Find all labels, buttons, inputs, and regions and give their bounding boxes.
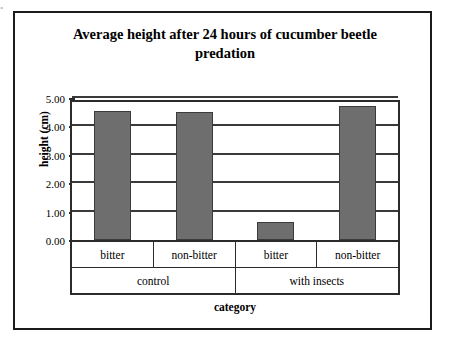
category-label-1-non-bitter: non-bitter [153, 242, 235, 267]
gridline-5 [72, 96, 398, 98]
y-axis-tick-labels: 5.004.003.002.001.000.00 [25, 100, 65, 242]
category-axis-subrow: bitternon-bitterbitternon-bitter [70, 242, 400, 268]
category-axis-table: bitternon-bitterbitternon-bitter control… [70, 242, 400, 295]
bar-with-insects-non-bitter [339, 106, 376, 240]
category-axis-grouprow: controlwith insects [70, 268, 400, 295]
y-tick-label-0.00: 0.00 [31, 236, 65, 247]
y-tick-label-1.00: 1.00 [31, 208, 65, 219]
chart-title: Average height after 24 hours of cucumbe… [55, 25, 395, 63]
bar-control-bitter [94, 111, 131, 240]
category-label-2-bitter: bitter [235, 242, 317, 267]
group-label-control: control [72, 268, 235, 293]
y-tick-label-3.00: 3.00 [31, 151, 65, 162]
bar-with-insects-bitter [257, 222, 294, 240]
y-tick-label-2.00: 2.00 [31, 179, 65, 190]
y-tick-label-4.00: 4.00 [31, 122, 65, 133]
category-label-0-bitter: bitter [72, 242, 153, 267]
group-label-with-insects: with insects [235, 268, 399, 293]
chart-frame: Average height after 24 hours of cucumbe… [13, 11, 432, 330]
category-label-3-non-bitter: non-bitter [316, 242, 398, 267]
bar-control-non-bitter [176, 112, 213, 240]
y-tick-label-5.00: 5.00 [31, 94, 65, 105]
plot-area [70, 100, 400, 242]
x-axis-title: category [70, 301, 400, 313]
chart-title-line-2: predation [55, 44, 395, 63]
scan-artifact-top: . [0, 0, 450, 9]
chart-title-line-1: Average height after 24 hours of cucumbe… [55, 25, 395, 44]
